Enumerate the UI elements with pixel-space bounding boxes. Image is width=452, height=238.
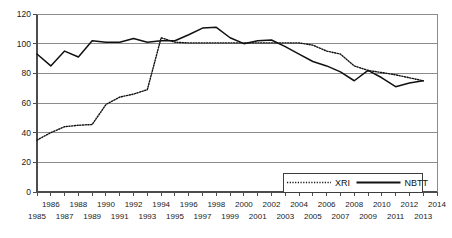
y-tick-label: 60 xyxy=(22,98,32,108)
y-tick-label: 40 xyxy=(22,128,32,138)
x-tick-label: 1997 xyxy=(194,212,212,221)
x-tick-label: 1996 xyxy=(180,200,198,209)
x-tick-label: 2000 xyxy=(235,200,253,209)
x-axis-tick-labels: 1985198619871988198919901991199219931994… xyxy=(28,200,446,221)
y-axis-tick-marks xyxy=(33,14,37,192)
line-chart: 020406080100120 198519861987198819891990… xyxy=(0,0,452,238)
chart-legend[interactable]: XRINBTT xyxy=(283,173,429,192)
x-tick-label: 1992 xyxy=(125,200,143,209)
y-tick-label: 80 xyxy=(22,68,32,78)
x-tick-label: 2005 xyxy=(304,212,322,221)
x-tick-label: 2011 xyxy=(387,212,405,221)
x-axis-tick-marks xyxy=(37,192,437,196)
x-tick-label: 2007 xyxy=(332,212,350,221)
x-tick-label: 1990 xyxy=(97,200,115,209)
x-tick-label: 1986 xyxy=(42,200,60,209)
x-tick-label: 1993 xyxy=(138,212,156,221)
x-tick-label: 1991 xyxy=(111,212,129,221)
x-tick-label: 2009 xyxy=(359,212,377,221)
y-tick-label: 20 xyxy=(22,157,32,167)
x-tick-label: 2013 xyxy=(414,212,432,221)
x-tick-label: 2012 xyxy=(401,200,419,209)
x-tick-label: 2010 xyxy=(373,200,391,209)
x-tick-label: 1998 xyxy=(207,200,225,209)
x-tick-label: 1994 xyxy=(152,200,170,209)
gridlines xyxy=(37,14,437,162)
x-tick-label: 1999 xyxy=(221,212,239,221)
y-tick-label: 100 xyxy=(17,39,31,49)
legend-label-nbtt: NBTT xyxy=(405,178,429,188)
x-tick-label: 2004 xyxy=(290,200,308,209)
legend-label-xri: XRI xyxy=(335,178,350,188)
x-tick-label: 1987 xyxy=(56,212,74,221)
x-tick-label: 1988 xyxy=(69,200,87,209)
y-tick-label: 120 xyxy=(17,9,31,19)
x-tick-label: 1989 xyxy=(83,212,101,221)
x-tick-label: 2014 xyxy=(428,200,446,209)
x-tick-label: 1995 xyxy=(166,212,184,221)
y-axis-tick-labels: 020406080100120 xyxy=(17,9,31,197)
x-tick-label: 2006 xyxy=(318,200,336,209)
x-tick-label: 2008 xyxy=(345,200,363,209)
x-tick-label: 2001 xyxy=(249,212,267,221)
series-line-nbtt xyxy=(37,27,423,86)
series-line-xri xyxy=(37,38,423,140)
chart-svg: 020406080100120 198519861987198819891990… xyxy=(0,0,452,238)
x-tick-label: 2002 xyxy=(263,200,281,209)
series-lines xyxy=(37,27,423,140)
y-tick-label: 0 xyxy=(26,187,31,197)
x-tick-label: 1985 xyxy=(28,212,46,221)
x-tick-label: 2003 xyxy=(276,212,294,221)
